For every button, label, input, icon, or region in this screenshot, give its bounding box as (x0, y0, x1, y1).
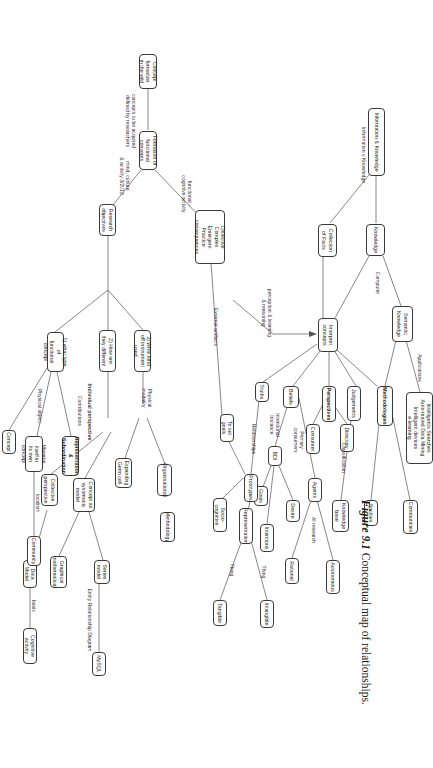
node-perspectives[interactable]: Perspectives (322, 386, 336, 422)
node-tangible[interactable]: Tangible (213, 600, 227, 626)
edge-label-external-artifacts: External artifacts (213, 300, 219, 354)
edge-label-classification: Classification (341, 438, 347, 478)
node-intangible[interactable]: Intangible (260, 600, 274, 628)
node-knowledge[interactable]: Knowledge (366, 224, 385, 256)
edge-label-thing-intangible: Thing (261, 560, 267, 584)
node-to-set-goals[interactable]: To set goals (220, 414, 234, 442)
figure-number: Figure 9.1 (360, 500, 372, 550)
node-formation-of-functional-concepts[interactable]: Formation of functional concepts (139, 131, 157, 170)
node-methodology[interactable]: Methodology (160, 512, 175, 542)
node-applications-list[interactable]: Intelligents Searches Auto-mated Data Mi… (406, 392, 433, 464)
edge-label-contributions: Contributions (77, 392, 83, 430)
node-concept-as-systematic-model[interactable]: Concept as systematic model (73, 478, 95, 512)
node-communities[interactable]: Communities (403, 500, 418, 534)
node-representation[interactable]: Representation (239, 508, 253, 544)
node-question-3[interactable]: 3) What kind off instrument used (134, 330, 151, 372)
node-prototypes[interactable]: Prototypes (244, 474, 258, 502)
edge-label-intentional-instance: Intentional Instance (269, 406, 282, 444)
edge-label-computer: Computer (375, 266, 381, 300)
node-concept[interactable]: Concept (2, 430, 16, 454)
node-graphical-mathematical[interactable]: Graphical mathematical (50, 556, 67, 588)
node-collective-complex-emergent[interactable]: Collective Complex Emergent Practice con… (195, 210, 225, 264)
node-bdi[interactable]: BDI (268, 446, 282, 466)
edge-label-perception-learning-reasoning: perception & learning & reasoning (261, 280, 274, 346)
node-mysql[interactable]: MySQL (92, 652, 106, 676)
node-rational[interactable]: Rational (285, 558, 299, 584)
figure-caption: Figure 9.1 Conceptual map of relationshi… (360, 500, 372, 760)
node-concept-formation-in-the-wild[interactable]: Concept formation in the wild (139, 54, 157, 89)
node-beliefs[interactable]: Beliefs (283, 386, 299, 408)
edge-label-relationships: Relationships (251, 418, 257, 460)
figure-page: Information & Knowledge Knowledge Collec… (0, 0, 433, 768)
node-truths[interactable]: Truths (255, 382, 269, 402)
node-knowledge-base[interactable]: Knowledge base (332, 500, 349, 532)
edge-label-individual-perspective: Individual perspective (86, 374, 93, 450)
node-interpret-concepts[interactable]: Interpret concepts (318, 318, 338, 352)
edge-label-functional-cognitive-activity: functional ~ cognitive activity (181, 172, 194, 216)
edge-label-applications: Applications (417, 348, 423, 388)
edge-label-physical-modality: Physical modality (141, 382, 154, 414)
node-question-2[interactable]: 2) How are they different (99, 330, 116, 372)
edge-label-ai-research: AI research (311, 512, 317, 548)
node-series-model[interactable]: Series model (94, 560, 110, 584)
node-consumer[interactable]: Consumer (306, 424, 320, 454)
edge-label-thing-tangible: Thing (229, 558, 235, 582)
figure-caption-text: Conceptual map of relationships. (360, 553, 372, 705)
node-judgements[interactable]: Judgements (347, 386, 361, 421)
node-collection-of-facts[interactable]: Collection of Facts (318, 224, 337, 257)
node-representation-subordination[interactable]: Representation & Subordination (62, 436, 79, 476)
node-desire[interactable]: Desire (286, 500, 300, 522)
node-cognitive-activity[interactable]: Cognitive activity (23, 628, 37, 664)
node-collective-perspective[interactable]: Collective perspective (41, 474, 58, 506)
edge-label-primary-consumers: Primary consumers (293, 420, 306, 460)
node-intentions[interactable]: Intentions (260, 524, 274, 552)
node-question-1[interactable]: 1) what type of functional concept (47, 332, 64, 372)
edge-label-mind-culture-activity: mind, culture & activity 3/2012 (119, 152, 132, 200)
node-socio-cognitive[interactable]: Socio-cognitive (213, 498, 227, 532)
edge-label-entity-relationship-diagram: Entity Relationship Diagram (87, 580, 93, 660)
edge-label-information-v-knowledge: Information v Knowledge (361, 120, 367, 190)
node-material-itself[interactable]: Material itself in its own concept (25, 436, 43, 472)
edge-label-concepts-acquired: concepts to be acquired defined by resea… (125, 86, 138, 156)
node-community[interactable]: Community (27, 536, 41, 566)
node-expanding-germ-cell[interactable]: Expanding Germ cell (115, 458, 132, 488)
node-autonomous[interactable]: Autonomous (326, 560, 340, 594)
node-organisational[interactable]: Organisational (157, 464, 172, 496)
node-methodologies[interactable]: Methodologies (377, 386, 393, 426)
node-information-knowledge[interactable]: Information & Knowledge (368, 108, 385, 176)
node-semantic-knowledge[interactable]: Semantic Knowledge (392, 306, 413, 342)
edge-label-localism: localism (35, 490, 41, 516)
node-agents[interactable]: Agents (308, 478, 322, 502)
node-research-objectives[interactable]: Research objectives (99, 204, 116, 236)
edge-label-basic: basic (31, 596, 37, 616)
edge-label-physical-object: Physical object (37, 386, 43, 426)
